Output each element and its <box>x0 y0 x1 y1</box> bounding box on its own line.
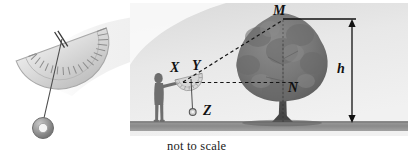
protractor-illustration <box>0 0 132 158</box>
ring-weight <box>33 118 54 139</box>
label-m: M <box>273 4 285 18</box>
figure-caption: not to scale <box>167 139 226 154</box>
scene-panel: X Y Z M N h <box>130 3 408 136</box>
label-z: Z <box>203 104 212 118</box>
label-y: Y <box>192 59 201 73</box>
label-x: X <box>170 61 179 75</box>
protractor-body <box>11 15 121 102</box>
label-n: N <box>288 81 298 95</box>
handheld-plumb-bob <box>189 109 196 116</box>
figure-container: X Y Z M N h not to scale <box>0 0 414 158</box>
label-h: h <box>337 62 345 76</box>
